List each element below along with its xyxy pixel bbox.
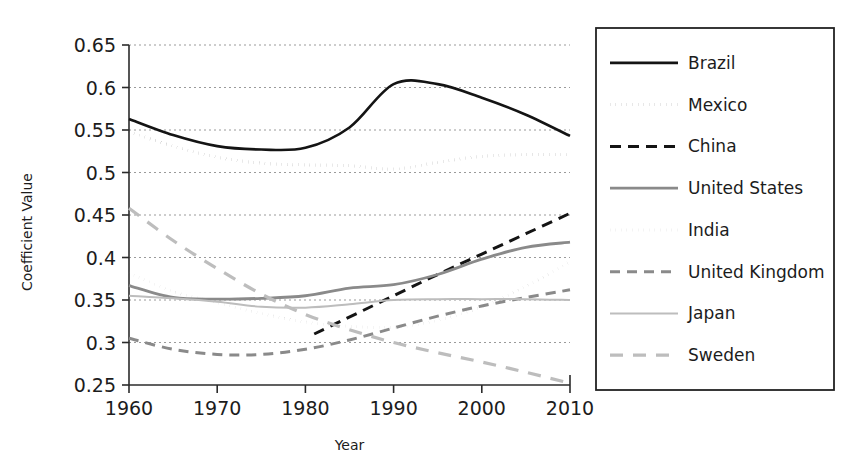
y-tick-label: 0.35 — [74, 289, 116, 311]
legend-label-united-states: United States — [688, 178, 803, 198]
x-tick-label: 1990 — [369, 397, 417, 419]
legend-label-india: India — [688, 220, 730, 240]
x-axis-title: Year — [334, 437, 365, 453]
y-tick-label: 0.55 — [74, 119, 116, 141]
line-chart: 0.250.30.350.40.450.50.550.60.65 1960197… — [0, 0, 844, 475]
y-tick-label: 0.4 — [86, 247, 116, 269]
x-tick-label: 2000 — [458, 397, 506, 419]
y-axis-title: Coefficient Value — [19, 173, 35, 291]
legend-label-brazil: Brazil — [688, 53, 735, 73]
chart-container: 0.250.30.350.40.450.50.550.60.65 1960197… — [0, 0, 844, 475]
y-tick-label: 0.3 — [86, 332, 116, 354]
x-tick-label: 1960 — [105, 397, 153, 419]
legend: BrazilMexicoChinaUnited StatesIndiaUnite… — [596, 28, 834, 390]
legend-label-mexico: Mexico — [688, 95, 747, 115]
legend-box — [596, 28, 834, 390]
y-tick-label: 0.6 — [86, 77, 116, 99]
x-tick-label: 2010 — [546, 397, 594, 419]
y-tick-label: 0.5 — [86, 162, 116, 184]
legend-label-china: China — [688, 136, 737, 156]
legend-label-japan: Japan — [687, 303, 735, 323]
legend-label-united-kingdom: United Kingdom — [688, 262, 824, 282]
legend-label-sweden: Sweden — [688, 345, 755, 365]
y-tick-label: 0.25 — [74, 374, 116, 396]
x-tick-label: 1980 — [281, 397, 329, 419]
y-tick-label: 0.65 — [74, 34, 116, 56]
y-tick-label: 0.45 — [74, 204, 116, 226]
x-tick-label: 1970 — [193, 397, 241, 419]
